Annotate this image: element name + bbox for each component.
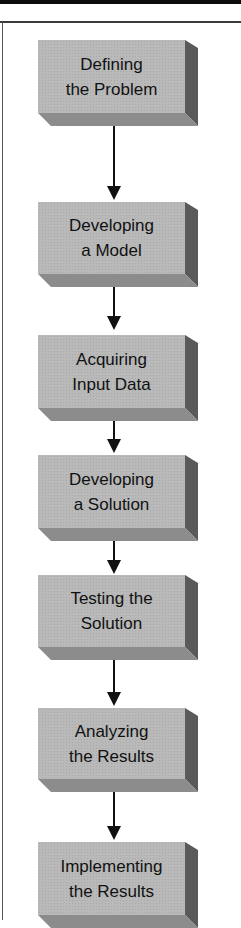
step-face: Developinga Model [38,202,185,274]
top-border [0,0,241,4]
step-face: Analyzingthe Results [38,708,185,779]
box-side [185,40,198,126]
step-label-line2: a Solution [74,495,150,514]
arrow-down-icon [107,692,121,706]
box-bottom [38,647,198,660]
step-label-line2: the Results [69,747,154,766]
box-side [185,202,198,287]
step-face: Developinga Solution [38,455,185,528]
step-label-line2: Solution [81,614,142,633]
step-label-line2: the Results [69,882,154,901]
box-bottom [38,408,198,421]
box-bottom [38,915,198,928]
arrow-down-icon [107,439,121,453]
box-side [185,575,198,660]
arrow-down-icon [107,316,121,330]
step-face: Implementingthe Results [38,842,185,915]
step-label-line1: Defining [80,55,142,74]
arrow-line [113,792,115,828]
step-label-line1: Developing [69,470,154,489]
box-side [185,455,198,541]
box-side [185,708,198,792]
left-border [2,22,3,920]
step-label-line2: a Model [81,241,141,260]
arrow-down-icon [107,560,121,574]
step-face: Testing theSolution [38,575,185,647]
arrow-down-icon [107,826,121,840]
step-label-line1: Analyzing [75,722,149,741]
box-side [185,842,198,928]
box-bottom [38,113,198,126]
step-label-line1: Testing the [70,589,152,608]
header-rule [0,21,241,23]
box-bottom [38,528,198,541]
box-bottom [38,274,198,287]
step-face: AcquiringInput Data [38,335,185,408]
step-label-line1: Acquiring [76,350,147,369]
arrow-down-icon [107,186,121,200]
box-side [185,335,198,421]
box-bottom [38,779,198,792]
step-label-line1: Implementing [60,857,162,876]
arrow-line [113,660,115,696]
step-face: Definingthe Problem [38,40,185,113]
step-label-line2: the Problem [66,80,158,99]
step-label-line2: Input Data [72,375,150,394]
arrow-line [113,126,115,190]
step-label-line1: Developing [69,216,154,235]
